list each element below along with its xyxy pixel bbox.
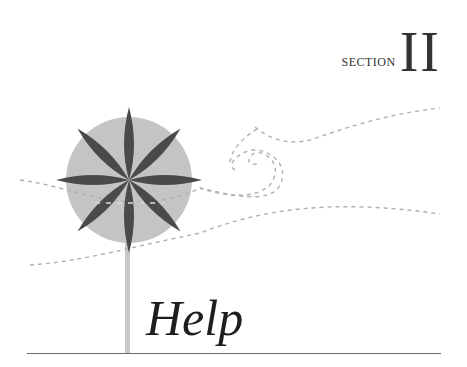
stem xyxy=(125,235,130,354)
petals xyxy=(56,107,202,253)
page-title: Help xyxy=(146,290,243,346)
divider-rule xyxy=(27,353,441,354)
